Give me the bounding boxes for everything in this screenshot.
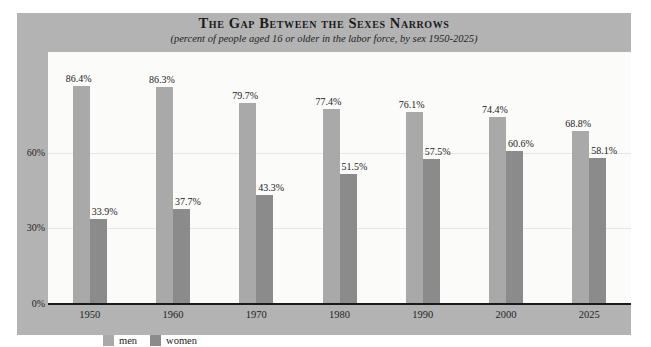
bar-group: 68.8%58.1% [572, 52, 606, 304]
bar-men-1990[interactable] [406, 112, 423, 304]
bar-value-label: 33.9% [92, 207, 118, 217]
bar-group: 76.1%57.5% [406, 52, 440, 304]
bar-value-label: 43.3% [258, 183, 284, 193]
bar-men-2025[interactable] [572, 131, 589, 304]
bar-value-label: 58.1% [591, 146, 617, 156]
bar-women-2025[interactable] [589, 158, 606, 304]
bar-value-label: 86.4% [66, 74, 92, 84]
bar-value-label: 86.3% [149, 75, 175, 85]
bar-group: 74.4%60.6% [489, 52, 523, 304]
legend-item-women[interactable]: women [150, 335, 197, 346]
x-axis-tick-label: 1980 [310, 309, 370, 320]
chart-legend: menwomen [103, 335, 197, 346]
bar-group: 77.4%51.5% [323, 52, 357, 304]
bar-value-label: 79.7% [232, 91, 258, 101]
x-axis-tick-label: 1950 [60, 309, 120, 320]
bar-men-1950[interactable] [73, 86, 90, 304]
chart-card: The Gap Between the Sexes Narrows (perce… [17, 13, 631, 335]
y-axis-tick-label: 60% [17, 148, 45, 158]
legend-swatch-icon [150, 335, 161, 346]
bar-men-1980[interactable] [323, 109, 340, 304]
bar-value-label: 57.5% [425, 147, 451, 157]
legend-label: women [166, 335, 197, 346]
bar-group: 86.3%37.7% [156, 52, 190, 304]
x-axis-tick-label: 1960 [143, 309, 203, 320]
x-axis-tick-label: 2000 [476, 309, 536, 320]
x-axis-tick-label: 1970 [226, 309, 286, 320]
x-axis-tick-label: 2025 [559, 309, 619, 320]
bar-women-1960[interactable] [173, 209, 190, 304]
x-axis-tick-label: 1990 [393, 309, 453, 320]
plot-area: 86.4%33.9%86.3%37.7%79.7%43.3%77.4%51.5%… [48, 52, 631, 304]
bar-men-1970[interactable] [239, 103, 256, 304]
bar-women-2000[interactable] [506, 151, 523, 304]
bar-value-label: 60.6% [508, 139, 534, 149]
y-axis-tick-label: 30% [17, 223, 45, 233]
bar-women-1950[interactable] [90, 219, 107, 304]
legend-label: men [119, 335, 137, 346]
bar-group: 86.4%33.9% [73, 52, 107, 304]
chart-figure: The Gap Between the Sexes Narrows (perce… [0, 0, 651, 347]
bar-women-1970[interactable] [256, 195, 273, 304]
bar-men-1960[interactable] [156, 87, 173, 304]
bar-value-label: 68.8% [565, 119, 591, 129]
bar-value-label: 76.1% [399, 100, 425, 110]
bar-group: 79.7%43.3% [239, 52, 273, 304]
bar-value-label: 51.5% [342, 162, 368, 172]
bar-value-label: 77.4% [316, 97, 342, 107]
y-axis-tick-label: 0% [17, 299, 45, 309]
x-axis-line [48, 303, 631, 305]
bar-value-label: 37.7% [175, 197, 201, 207]
chart-subtitle: (percent of people aged 16 or older in t… [17, 32, 631, 46]
chart-title: The Gap Between the Sexes Narrows [17, 15, 631, 32]
bar-women-1980[interactable] [340, 174, 357, 304]
legend-item-men[interactable]: men [103, 335, 137, 346]
bar-women-1990[interactable] [423, 159, 440, 304]
bar-men-2000[interactable] [489, 117, 506, 304]
bar-value-label: 74.4% [482, 105, 508, 115]
legend-swatch-icon [103, 335, 114, 346]
